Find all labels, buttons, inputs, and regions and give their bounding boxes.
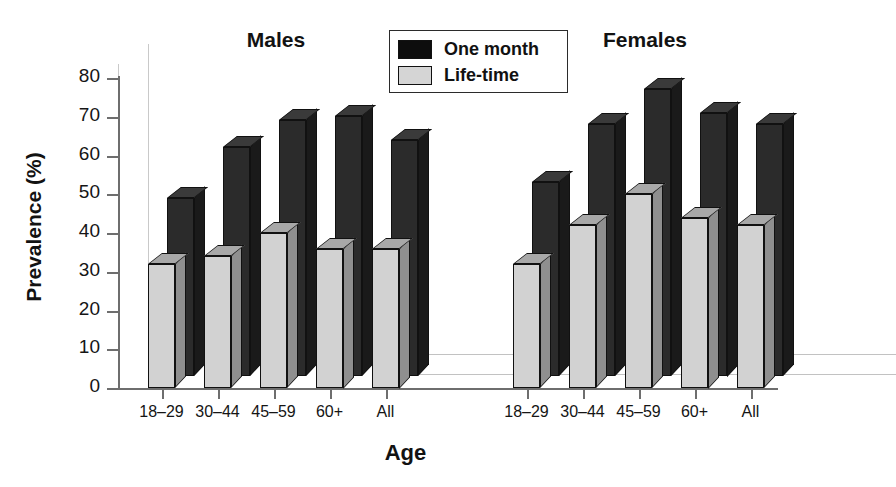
y-tick-label: 10	[40, 336, 100, 358]
bar-front	[681, 218, 708, 389]
y-tick-mark	[107, 349, 118, 351]
x-tick-label: All	[742, 403, 760, 421]
bar-side	[540, 252, 551, 388]
dark-swatch-icon	[398, 40, 432, 59]
bar-side	[764, 213, 775, 388]
y-tick-label: 70	[40, 104, 100, 126]
y-tick-mark	[107, 233, 118, 235]
x-tick-label: 45–59	[616, 403, 661, 421]
y-tick-label: 40	[40, 220, 100, 242]
bar-life-time	[372, 249, 399, 389]
bar-side	[399, 237, 410, 388]
x-tick	[162, 388, 164, 399]
bar-side	[287, 221, 298, 388]
x-axis-title: Age	[0, 440, 811, 466]
x-tick	[330, 388, 332, 399]
y-tick-mark	[107, 272, 118, 274]
bar-life-time	[260, 233, 287, 388]
bar-side	[708, 206, 719, 388]
bar-side	[343, 237, 354, 388]
y-axis-line	[118, 76, 120, 388]
y-tick-mark	[107, 388, 118, 390]
y-tick-label: 30	[40, 259, 100, 281]
x-tick-label: 18–29	[504, 403, 549, 421]
bar-front	[625, 194, 652, 388]
x-tick	[274, 388, 276, 399]
group-title-males: Males	[247, 28, 305, 52]
bar-front	[260, 233, 287, 388]
y-tick-mark	[107, 78, 118, 80]
y-tick-mark	[107, 311, 118, 313]
bar-front	[737, 225, 764, 388]
bar-life-time	[737, 225, 764, 388]
light-swatch-icon	[398, 66, 432, 85]
bar-side	[418, 128, 429, 376]
y-tick-label: 80	[40, 65, 100, 87]
bar-life-time	[148, 264, 175, 388]
bar-front	[204, 256, 231, 388]
legend-item-one-month[interactable]: One month	[398, 36, 559, 62]
x-tick	[695, 388, 697, 399]
bar-front	[513, 264, 540, 388]
legend-label: One month	[444, 39, 539, 60]
y-tick-mark	[107, 156, 118, 158]
x-tick	[527, 388, 529, 399]
x-tick-label: All	[377, 403, 395, 421]
bar-life-time	[569, 225, 596, 388]
bar-side	[231, 244, 242, 388]
bar-side	[783, 112, 794, 376]
x-tick	[583, 388, 585, 399]
x-tick-label: 60+	[681, 403, 708, 421]
y-tick-label: 20	[40, 298, 100, 320]
y-tick-label: 0	[40, 375, 100, 397]
bar-front	[372, 249, 399, 389]
x-tick-label: 18–29	[139, 403, 184, 421]
y-tick-label: 60	[40, 143, 100, 165]
bar-life-time	[204, 256, 231, 388]
bar-front	[569, 225, 596, 388]
x-tick-label: 30–44	[195, 403, 240, 421]
y-tick-mark	[107, 117, 118, 119]
group-title-females: Females	[603, 28, 687, 52]
bar-side	[175, 252, 186, 388]
x-tick-label: 30–44	[560, 403, 605, 421]
x-tick-label: 45–59	[251, 403, 296, 421]
x-tick	[218, 388, 220, 399]
bar-life-time	[316, 249, 343, 389]
legend: One month Life-time	[389, 30, 568, 93]
legend-label: Life-time	[444, 65, 519, 86]
bar-front	[148, 264, 175, 388]
y-tick-label: 50	[40, 181, 100, 203]
bar-side	[596, 213, 607, 388]
bar-life-time	[681, 218, 708, 389]
bar-side	[652, 182, 663, 388]
bar-life-time	[625, 194, 652, 388]
x-tick-label: 60+	[316, 403, 343, 421]
x-tick	[386, 388, 388, 399]
plot-area: 01020304050607080 18–2930–4445–5960+All1…	[118, 78, 778, 388]
x-tick	[639, 388, 641, 399]
bar-life-time	[513, 264, 540, 388]
y-tick-mark	[107, 194, 118, 196]
legend-item-life-time[interactable]: Life-time	[398, 62, 559, 88]
bar-front	[316, 249, 343, 389]
x-tick	[751, 388, 753, 399]
